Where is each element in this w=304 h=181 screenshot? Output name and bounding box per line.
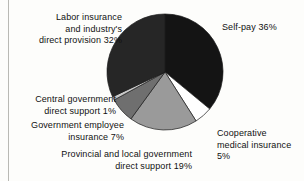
slice-label-labor-insurance: Labor insurance and industry's direct pr… bbox=[14, 12, 122, 47]
pie-chart bbox=[106, 13, 224, 131]
pie-svg bbox=[106, 13, 224, 131]
slice-label-self-pay: Self-pay 36% bbox=[222, 22, 300, 34]
slice-label-cooperative-medical: Cooperative medical insurance 5% bbox=[217, 128, 303, 163]
pie-chart-figure: Labor insurance and industry's direct pr… bbox=[0, 0, 304, 181]
slice-label-central-government: Central government direct support 1% bbox=[8, 94, 116, 117]
left-margin-rule bbox=[8, 0, 9, 181]
slice-label-provincial-local-government: Provincial and local government direct s… bbox=[24, 149, 192, 172]
pie-slice-group bbox=[107, 14, 223, 130]
slice-label-government-employee: Government employee insurance 7% bbox=[6, 120, 124, 143]
